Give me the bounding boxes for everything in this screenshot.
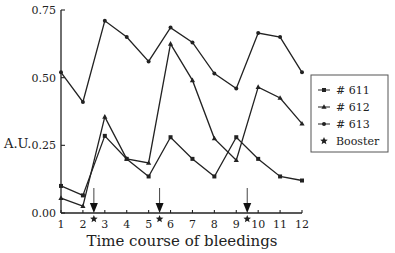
legend-label: # 613 — [336, 118, 370, 131]
x-tick-label: 12 — [295, 218, 309, 231]
data-point — [212, 174, 216, 178]
y-tick-label: 0.75 — [32, 4, 57, 17]
x-tick-label: 6 — [167, 218, 174, 231]
x-tick-label: 3 — [101, 218, 108, 231]
arrow-head-icon — [243, 203, 251, 213]
axes: 0.000.250.500.75123456789101112 — [32, 4, 310, 231]
data-point — [212, 136, 217, 141]
arrow-head-icon — [156, 203, 164, 213]
data-point — [147, 174, 151, 178]
x-tick-label: 1 — [58, 218, 65, 231]
x-tick-label: 7 — [189, 218, 196, 231]
data-point — [58, 195, 63, 200]
x-tick-label: 9 — [233, 218, 240, 231]
data-point — [278, 35, 282, 39]
series-line — [61, 44, 302, 206]
legend-label: Booster — [336, 135, 380, 148]
series-group — [58, 19, 304, 208]
data-point — [234, 135, 238, 139]
data-point — [168, 41, 173, 46]
x-tick-label: 10 — [251, 218, 265, 231]
arrow-head-icon — [90, 203, 98, 213]
booster-star-icon — [156, 215, 164, 222]
legend-circle-icon — [322, 122, 326, 126]
data-point — [300, 70, 304, 74]
data-point — [278, 174, 282, 178]
data-point — [103, 19, 107, 23]
data-point — [256, 84, 261, 89]
y-tick-label: 0.50 — [32, 72, 57, 85]
line-chart: 0.000.250.500.75123456789101112 A.U. Tim… — [0, 0, 395, 253]
legend-label: # 612 — [336, 101, 370, 114]
data-point — [169, 135, 173, 139]
data-point — [190, 40, 194, 44]
booster-star-icon — [90, 215, 98, 222]
series-611 — [59, 134, 304, 198]
data-point — [81, 100, 85, 104]
legend-square-icon — [322, 88, 326, 92]
data-point — [190, 157, 194, 161]
booster-arrow — [156, 188, 164, 222]
y-tick-label: 0.25 — [32, 139, 57, 152]
legend: # 611# 612# 613Booster — [311, 75, 388, 152]
x-axis-label: Time course of bleedings — [86, 232, 277, 250]
data-point — [256, 31, 260, 35]
data-point — [212, 72, 216, 76]
booster-arrow — [243, 188, 251, 222]
x-tick-label: 5 — [145, 218, 152, 231]
x-tick-label: 8 — [211, 218, 218, 231]
y-axis-label: A.U. — [3, 136, 31, 151]
booster-star-icon — [243, 215, 251, 222]
data-point — [59, 70, 63, 74]
series-612 — [58, 41, 304, 208]
data-point — [300, 179, 304, 183]
data-point — [81, 193, 85, 197]
data-point — [147, 59, 151, 63]
x-tick-label: 2 — [79, 218, 86, 231]
y-tick-label: 0.00 — [32, 207, 57, 220]
data-point — [169, 26, 173, 30]
series-line — [61, 136, 302, 196]
legend-label: # 611 — [336, 84, 370, 97]
data-point — [256, 157, 260, 161]
x-tick-label: 11 — [273, 218, 287, 231]
data-point — [102, 114, 107, 119]
data-point — [103, 134, 107, 138]
data-point — [234, 86, 238, 90]
x-tick-label: 4 — [123, 218, 130, 231]
data-point — [59, 184, 63, 188]
booster-arrow — [90, 188, 98, 222]
data-point — [125, 35, 129, 39]
